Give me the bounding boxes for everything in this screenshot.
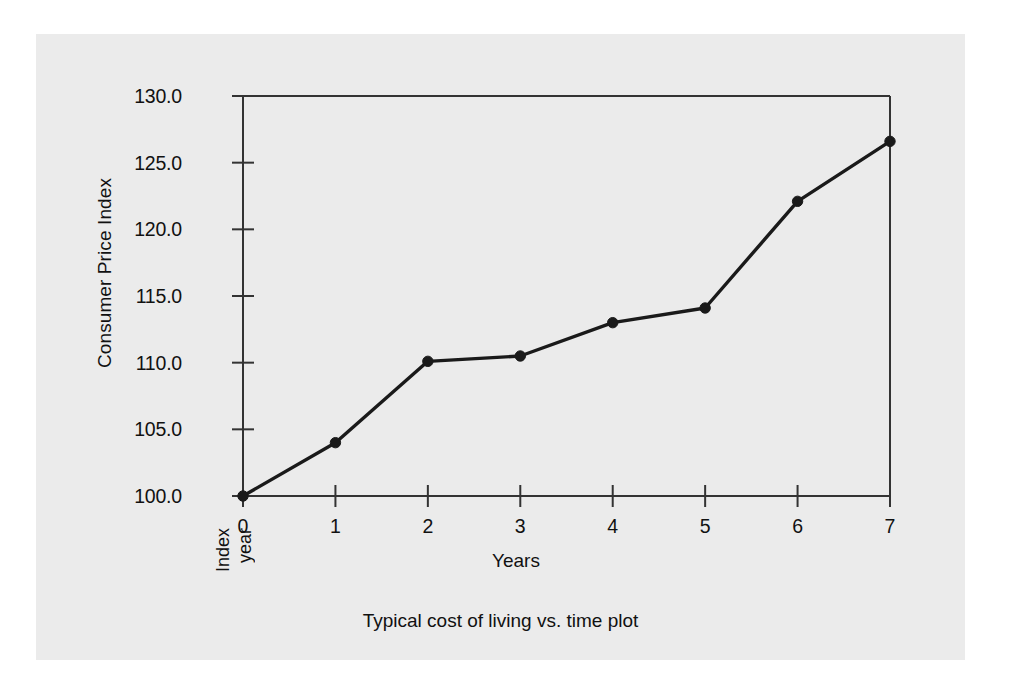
x-tick-label-5: 5 — [685, 515, 725, 538]
figure-caption: Typical cost of living vs. time plot — [36, 610, 965, 632]
x-tick-label-4: 4 — [593, 515, 633, 538]
x-tick-label-1: 1 — [315, 515, 355, 538]
x-tick-label-7: 7 — [870, 515, 910, 538]
index-year-line-2: year — [236, 528, 254, 563]
x-tick-label-6: 6 — [778, 515, 818, 538]
x-axis-title: Years — [416, 550, 616, 572]
scanned-figure-area: Consumer Price Index 100.0105.0110.0115.… — [36, 34, 965, 660]
chart-figure: Consumer Price Index 100.0105.0110.0115.… — [36, 34, 965, 660]
x-tick-label-2: 2 — [408, 515, 448, 538]
x-tick-label-3: 3 — [500, 515, 540, 538]
index-year-line-1: Index — [214, 528, 232, 572]
figure-page: Consumer Price Index 100.0105.0110.0115.… — [0, 0, 1016, 696]
